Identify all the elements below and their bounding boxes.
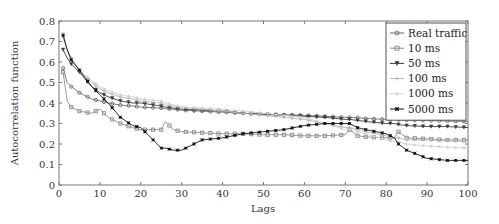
y-tick-label: 0.8 (39, 16, 55, 27)
x-tick-label: 30 (175, 188, 188, 199)
y-tick-label: 0.5 (39, 77, 55, 88)
y-tick-label: 0.3 (39, 118, 55, 129)
legend-label: 5000 ms (408, 103, 453, 115)
x-tick-label: 80 (380, 188, 393, 199)
y-tick-label: 0 (49, 180, 55, 191)
x-tick-label: 60 (298, 188, 311, 199)
y-tick-label: 0.7 (39, 36, 55, 47)
legend-label: 100 ms (408, 72, 447, 84)
autocorrelation-chart: 0102030405060708090100 00.10.20.30.40.50… (0, 0, 499, 224)
legend-label: 10 ms (408, 42, 440, 54)
x-tick-label: 100 (458, 188, 477, 199)
legend: Real traffic10 ms50 ms100 ms1000 ms5000 … (386, 23, 467, 120)
y-tick-label: 0.1 (39, 159, 55, 170)
legend-label: 50 ms (408, 57, 440, 69)
legend-label: Real traffic (408, 27, 467, 39)
x-tick-label: 0 (56, 188, 62, 199)
y-axis-label: Autocorrelation function (9, 40, 20, 166)
x-tick-label: 20 (134, 188, 147, 199)
x-tick-label: 50 (257, 188, 270, 199)
y-tick-label: 0.2 (39, 139, 55, 150)
y-tick-label: 0.6 (39, 57, 55, 68)
x-tick-label: 70 (339, 188, 352, 199)
y-tick-label: 0.4 (39, 98, 55, 109)
x-tick-label: 90 (421, 188, 434, 199)
x-axis-label: Lags (251, 203, 275, 214)
x-tick-label: 40 (216, 188, 229, 199)
legend-label: 1000 ms (408, 87, 453, 99)
x-tick-label: 10 (94, 188, 107, 199)
